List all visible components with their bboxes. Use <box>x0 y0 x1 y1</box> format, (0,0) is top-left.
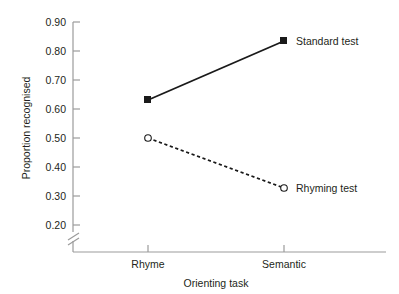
y-tick-label-050: 0.50 <box>46 132 67 144</box>
chart-container: 0.90 0.80 0.70 0.60 0.50 0.40 0.30 0.20 … <box>0 0 399 294</box>
data-point-rhyming-semantic <box>281 185 288 192</box>
y-axis-title: Proportion recognised <box>20 76 32 179</box>
data-point-standard-semantic <box>281 38 287 44</box>
y-tick-label-020: 0.20 <box>46 219 67 231</box>
x-axis-title: Orienting task <box>184 277 250 289</box>
line-chart: 0.90 0.80 0.70 0.60 0.50 0.40 0.30 0.20 … <box>0 0 399 294</box>
x-tick-label-rhyme: Rhyme <box>131 258 164 270</box>
series-label-standard-test: Standard test <box>296 35 359 47</box>
y-tick-label-030: 0.30 <box>46 190 67 202</box>
series-line-rhyming-test <box>148 138 284 188</box>
y-tick-label-040: 0.40 <box>46 161 67 173</box>
series-label-rhyming-test: Rhyming test <box>296 182 357 194</box>
y-tick-label-090: 0.90 <box>46 16 67 28</box>
y-tick-label-060: 0.60 <box>46 103 67 115</box>
data-point-standard-rhyme <box>145 97 151 103</box>
series-line-standard-test <box>148 41 284 100</box>
y-tick-label-070: 0.70 <box>46 74 67 86</box>
y-tick-label-080: 0.80 <box>46 45 67 57</box>
x-tick-label-semantic: Semantic <box>262 258 306 270</box>
data-point-rhyming-rhyme <box>145 135 152 142</box>
